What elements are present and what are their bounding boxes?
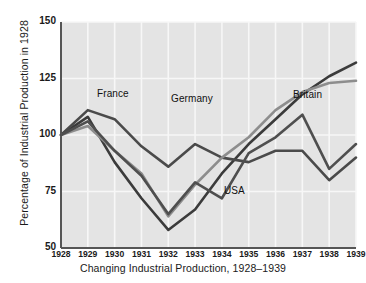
y-tick-label: 150: [28, 15, 56, 26]
x-tick-label: 1930: [100, 249, 130, 259]
x-tick-label: 1931: [126, 249, 156, 259]
series-label-germany: Germany: [171, 93, 213, 104]
x-axis-title: Changing Industrial Production, 1928–193…: [0, 262, 366, 274]
x-tick-label: 1934: [207, 249, 237, 259]
x-tick-label: 1933: [180, 249, 210, 259]
y-tick-label: 100: [28, 128, 56, 139]
y-axis-title: Percentage of Industrial Production in 1…: [18, 3, 30, 243]
x-tick-label: 1928: [46, 249, 76, 259]
x-tick-label: 1936: [261, 249, 291, 259]
x-tick-label: 1939: [341, 249, 366, 259]
chart-figure: Percentage of Industrial Production in 1…: [0, 0, 366, 283]
x-tick-label: 1932: [153, 249, 183, 259]
x-tick-label: 1929: [73, 249, 103, 259]
x-tick-label: 1938: [314, 249, 344, 259]
x-tick-label: 1937: [287, 249, 317, 259]
series-label-usa: USA: [224, 185, 245, 196]
y-tick-label: 75: [28, 185, 56, 196]
y-tick-label: 125: [28, 72, 56, 83]
series-label-britain: Britain: [293, 89, 322, 100]
series-label-france: France: [97, 88, 129, 99]
x-tick-label: 1935: [234, 249, 264, 259]
